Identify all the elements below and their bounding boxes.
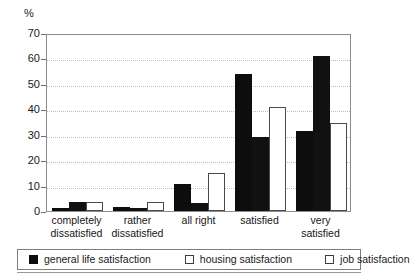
plot-area	[46, 34, 351, 212]
bar	[269, 107, 286, 211]
y-tick-label-10: 10	[14, 181, 40, 192]
x-tick-label-line: completely	[46, 214, 107, 227]
y-tick-mark-30	[41, 136, 46, 137]
bar	[86, 202, 103, 211]
x-tick-label: verysatisfied	[290, 214, 351, 239]
y-tick-label-20: 20	[14, 155, 40, 166]
y-axis-unit-label: %	[24, 8, 34, 19]
bar	[69, 202, 86, 211]
y-tick-label-70: 70	[14, 28, 40, 39]
x-tick-label-line: all right	[168, 214, 229, 227]
legend-swatch-icon	[29, 255, 38, 264]
y-tick-label-40: 40	[14, 104, 40, 115]
bar	[52, 208, 69, 211]
legend-bottom-rule	[17, 272, 361, 273]
legend-swatch-icon	[185, 255, 194, 264]
y-tick-mark-70	[41, 34, 46, 35]
x-tick-label: ratherdissatisfied	[107, 214, 168, 239]
legend-label: general life satisfaction	[44, 254, 151, 265]
bar	[296, 131, 313, 211]
x-tick-label: satisfied	[229, 214, 290, 227]
legend-item[interactable]: job satisfaction	[325, 254, 409, 265]
y-tick-mark-50	[41, 85, 46, 86]
bar	[174, 184, 191, 211]
x-tick-label: completelydissatisfied	[46, 214, 107, 239]
x-tick-label-line: rather	[107, 214, 168, 227]
bar	[147, 202, 164, 211]
legend-label: housing satisfaction	[200, 254, 292, 265]
bar	[208, 173, 225, 211]
legend-label: job satisfaction	[340, 254, 409, 265]
y-tick-mark-10	[41, 187, 46, 188]
y-tick-mark-60	[41, 59, 46, 60]
bar	[235, 74, 252, 211]
x-tick-label-line: dissatisfied	[107, 227, 168, 240]
bar	[252, 137, 269, 211]
x-tick-label-line: satisfied	[290, 227, 351, 240]
y-tick-mark-0	[41, 212, 46, 213]
bar	[130, 208, 147, 211]
bar	[313, 56, 330, 211]
bar-group	[47, 35, 108, 211]
y-tick-label-0: 0	[14, 206, 40, 217]
bar-group	[169, 35, 230, 211]
y-tick-label-50: 50	[14, 79, 40, 90]
bar	[191, 203, 208, 211]
bar	[330, 123, 347, 211]
legend-swatch-icon	[325, 255, 334, 264]
bar-group	[230, 35, 291, 211]
bar	[113, 207, 130, 211]
x-tick-label-line: dissatisfied	[46, 227, 107, 240]
y-tick-label-60: 60	[14, 53, 40, 64]
legend-item[interactable]: housing satisfaction	[185, 254, 292, 265]
x-tick-label-line: very	[290, 214, 351, 227]
x-tick-label: all right	[168, 214, 229, 227]
legend: general life satisfactionhousing satisfa…	[17, 249, 361, 270]
legend-item[interactable]: general life satisfaction	[29, 254, 151, 265]
y-tick-mark-40	[41, 110, 46, 111]
bars-layer	[47, 35, 350, 211]
x-tick-label-line: satisfied	[229, 214, 290, 227]
bar-group	[108, 35, 169, 211]
x-axis: completelydissatisfiedratherdissatisfied…	[46, 214, 351, 246]
y-tick-label-30: 30	[14, 130, 40, 141]
y-tick-mark-20	[41, 161, 46, 162]
bar-group	[291, 35, 352, 211]
